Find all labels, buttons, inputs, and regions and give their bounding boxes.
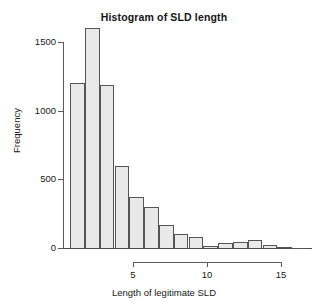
histogram-bar [277,247,292,248]
y-tick-mark [58,111,63,112]
x-tick-label: 15 [261,269,301,280]
x-tick-mark [281,262,282,267]
y-tick-mark [58,179,63,180]
histogram-bar [70,83,85,248]
x-axis-title: Length of legitimate SLD [0,287,328,298]
histogram-bar [85,28,100,248]
histogram-bar [189,237,204,248]
y-tick-label: 1000 [0,105,56,116]
x-tick-label: 10 [187,269,227,280]
y-axis-title: Frequency [11,91,22,171]
y-axis-line [63,42,64,249]
histogram-bar [218,243,233,248]
y-tick-label: 500 [0,173,56,184]
histogram-bar [292,248,307,249]
histogram-baseline [63,248,312,249]
y-tick-mark [58,42,63,43]
histogram-bar [203,246,218,248]
histogram-bar [263,245,278,248]
histogram-bar [144,207,159,248]
histogram-bar [174,234,189,248]
x-tick-mark [207,262,208,267]
x-tick-mark [133,262,134,267]
histogram-bar [115,166,130,248]
histogram-bar [233,242,248,248]
y-tick-label: 1500 [0,36,56,47]
histogram-bar [248,240,263,248]
plot-area: 050010001500 Frequency 51015 Length of l… [0,0,328,308]
histogram-bar [159,225,174,248]
x-tick-label: 5 [113,269,153,280]
y-tick-label: 0 [0,242,56,253]
histogram-bar [100,85,115,248]
histogram-figure: Histogram of SLD length 050010001500 Fre… [0,0,328,308]
histogram-bar [129,197,144,248]
